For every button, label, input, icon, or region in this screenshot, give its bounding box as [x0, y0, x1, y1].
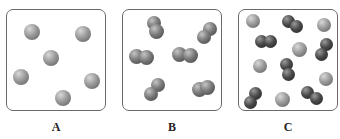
atom — [24, 24, 40, 40]
panel-a-box — [6, 9, 106, 111]
atom — [253, 59, 267, 73]
atom — [43, 50, 59, 66]
panel-b-box — [122, 9, 222, 111]
atom — [84, 73, 100, 89]
panel-c-box — [238, 9, 338, 111]
atom — [75, 26, 91, 42]
panel-b-label: B — [122, 120, 222, 135]
panel-c-label: C — [238, 120, 338, 135]
panel-a-label: A — [6, 120, 106, 135]
atom — [275, 92, 290, 107]
atom — [317, 18, 331, 32]
atom — [319, 72, 333, 86]
atom — [292, 42, 307, 57]
atom — [13, 69, 29, 85]
atom — [55, 90, 71, 106]
atom — [246, 14, 260, 28]
